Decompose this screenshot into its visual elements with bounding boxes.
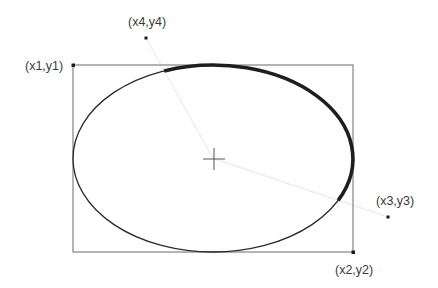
center-crosshair-icon (203, 148, 225, 170)
bold-arc (164, 65, 353, 200)
point-p4[interactable] (145, 37, 148, 40)
ray-to-p3 (213, 159, 388, 218)
label-p2: (x2,y2) (335, 263, 373, 277)
ray-to-p4 (146, 38, 213, 159)
ellipse-arc-diagram: (x1,y1) (x2,y2) (x3,y3) (x4,y4) (0, 0, 438, 288)
point-p2[interactable] (352, 251, 356, 255)
point-p3[interactable] (387, 216, 390, 219)
point-p1[interactable] (72, 64, 76, 68)
label-p4: (x4,y4) (128, 15, 166, 29)
label-p1: (x1,y1) (25, 59, 63, 73)
label-p3: (x3,y3) (376, 194, 414, 208)
